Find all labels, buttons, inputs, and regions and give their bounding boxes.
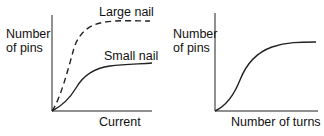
large-nail-label: Large nail bbox=[99, 5, 154, 19]
left-chart: Number of pins Current Large nail Small … bbox=[6, 5, 158, 129]
right-xlabel: Number of turns bbox=[231, 115, 321, 129]
turns-curve bbox=[215, 42, 316, 111]
chart-canvas: Number of pins Current Large nail Small … bbox=[0, 0, 324, 136]
small-nail-label: Small nail bbox=[104, 49, 158, 63]
right-ylabel-line2: of pins bbox=[173, 41, 210, 55]
right-chart: Number of pins Number of turns bbox=[173, 13, 321, 129]
left-ylabel-line1: Number bbox=[6, 27, 50, 41]
large-nail-curve bbox=[52, 21, 150, 111]
small-nail-curve bbox=[52, 63, 152, 111]
left-ylabel-line2: of pins bbox=[6, 41, 43, 55]
left-xlabel: Current bbox=[99, 115, 141, 129]
right-ylabel-line1: Number bbox=[173, 27, 217, 41]
